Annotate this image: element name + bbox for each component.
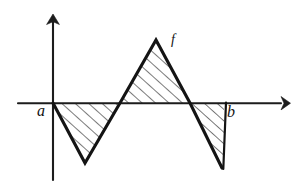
y-axis xyxy=(47,14,60,180)
figure-canvas: a b f xyxy=(0,0,296,186)
label-f: f xyxy=(171,33,175,47)
x-axis-arrowhead xyxy=(281,97,291,110)
signed-area-figure xyxy=(0,0,296,186)
label-b: b xyxy=(227,104,235,120)
label-a: a xyxy=(37,103,45,119)
